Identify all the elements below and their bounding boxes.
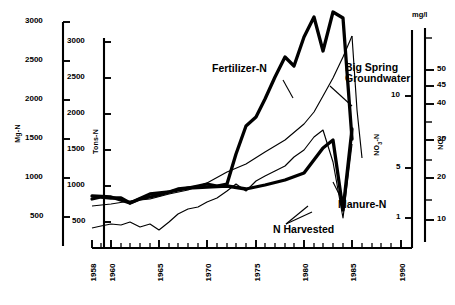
- series-big-spring-groundwater-tail: [352, 36, 362, 158]
- left-inner-tick-2000: 2000: [67, 108, 85, 117]
- nitrogen-balance-chart: Mg-N 3000 2500 2000 1500 1000 500 Tons-N…: [0, 0, 455, 305]
- n-harvested-label: N Harvested: [273, 223, 334, 235]
- left-inner-tick-500: 500: [72, 216, 85, 225]
- left-outer-tick-3000: 3000: [25, 16, 43, 25]
- big-spring-groundwater-label: Big Spring Groundwater: [345, 62, 410, 84]
- left-inner-tick-1000: 1000: [67, 180, 85, 189]
- x-tick-1965: 1965: [156, 253, 165, 293]
- right-outer-tick-10: 10: [437, 214, 446, 223]
- left-outer-tick-2000: 2000: [25, 94, 43, 103]
- right-inner-tick-10: 10: [391, 90, 400, 99]
- x-tick-1970: 1970: [204, 253, 213, 293]
- fertilizer-n-label: Fertilizer-N: [212, 62, 267, 74]
- x-tick-1958: 1958: [89, 253, 98, 293]
- x-tick-1990: 1990: [398, 253, 407, 293]
- left-inner-axis-title: Tons-N: [92, 122, 99, 162]
- x-tick-1975: 1975: [253, 253, 262, 293]
- right-outer-tick-40: 40: [437, 98, 446, 107]
- left-inner-tick-3000: 3000: [67, 36, 85, 45]
- right-inner-tick-5: 5: [396, 162, 400, 171]
- left-outer-tick-500: 500: [30, 211, 43, 220]
- x-tick-1960: 1960: [108, 253, 117, 293]
- right-inner-axis-title-suffix: -N: [373, 134, 380, 142]
- right-outer-tick-30: 30: [437, 134, 446, 143]
- series-n-harvested: [92, 130, 352, 230]
- manure-n-label: Manure-N: [338, 198, 386, 210]
- right-inner-axis-title: NO3-N: [373, 122, 382, 168]
- left-inner-axis: [104, 38, 111, 248]
- right-inner-axis-title-sub: 3: [377, 142, 383, 145]
- right-inner-tick-1: 1: [396, 212, 400, 221]
- x-tick-1985: 1985: [349, 253, 358, 293]
- left-inner-tick-2500: 2500: [67, 72, 85, 81]
- right-inner-axis-title-base: NO: [373, 145, 380, 156]
- big-spring-groundwater-label-line2: Groundwater: [345, 73, 410, 84]
- left-outer-axis-title: Mg-N: [14, 114, 21, 154]
- left-outer-tick-1000: 1000: [25, 172, 43, 181]
- series-manure-n: [92, 129, 352, 210]
- left-outer-tick-2500: 2500: [25, 55, 43, 64]
- right-outer-tick-20: 20: [437, 172, 446, 181]
- x-tick-1980: 1980: [301, 253, 310, 293]
- right-outer-tick-45: 45: [437, 80, 446, 89]
- right-outer-tick-50: 50: [437, 64, 446, 73]
- left-outer-tick-1500: 1500: [25, 133, 43, 142]
- right-outer-axis: [425, 28, 434, 242]
- right-axis-unit-label: mg/l: [412, 10, 427, 19]
- left-inner-tick-1500: 1500: [67, 144, 85, 153]
- left-outer-axis: [63, 22, 70, 246]
- x-axis: [92, 240, 412, 248]
